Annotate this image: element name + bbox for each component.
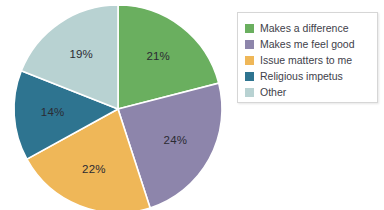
pie-slice-data-label: 19% [69,48,93,60]
legend-swatch-icon [245,88,254,97]
pie-chart-plot-area: 21%24%22%14%19% [0,0,236,210]
legend-swatch-icon [245,24,254,33]
chart-legend: Makes a difference Makes me feel good Is… [237,12,378,103]
legend-item-issue-matters-to-me[interactable]: Issue matters to me [245,52,377,68]
pie-chart-svg: 21%24%22%14%19% [0,0,236,210]
legend-swatch-icon [245,72,254,81]
legend-item-religious-impetus[interactable]: Religious impetus [245,68,377,84]
legend-item-label: Other [260,84,286,100]
pie-slice-data-label: 22% [82,163,106,175]
legend-swatch-icon [245,40,254,49]
pie-chart-figure: 21%24%22%14%19% Makes a difference Makes… [0,0,384,210]
legend-swatch-icon [245,56,254,65]
pie-slice-data-label: 24% [164,134,188,146]
legend-item-label: Makes a difference [260,20,349,36]
pie-slice-data-label: 21% [146,50,170,62]
legend-item-other[interactable]: Other [245,84,377,100]
legend-item-makes-me-feel-good[interactable]: Makes me feel good [245,36,377,52]
legend-item-label: Religious impetus [260,68,343,84]
legend-item-label: Makes me feel good [260,36,355,52]
legend-item-makes-a-difference[interactable]: Makes a difference [245,20,377,36]
pie-slice-data-label: 14% [41,106,65,118]
legend-item-label: Issue matters to me [260,52,352,68]
